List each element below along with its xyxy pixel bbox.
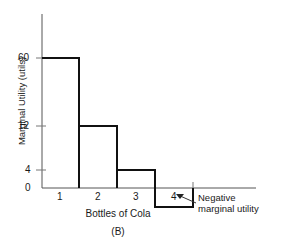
x-axis-label: Bottles of Cola	[42, 208, 194, 219]
x-tick-label-2: 2	[95, 192, 101, 202]
x-tick-label-3: 3	[133, 192, 139, 202]
bar-series-outline	[42, 58, 193, 207]
figure-container: 60 12 4 0 1 2 3 4 Marginal Utility (util…	[0, 0, 286, 250]
annotation-line-2: marginal utility	[198, 203, 284, 214]
x-tick-label-1: 1	[57, 192, 63, 202]
y-tick-label-0: 0	[25, 183, 31, 193]
y-axis-label: Marginal Utility (utils)	[17, 41, 27, 161]
annotation-line-1: Negative	[198, 192, 284, 203]
negative-marginal-utility-annotation: Negative marginal utility	[198, 192, 284, 214]
figure-caption: (B)	[42, 226, 194, 237]
y-tick-label-4: 4	[25, 165, 31, 175]
annotation-arrow-icon	[176, 194, 184, 199]
x-tick-label-4: 4	[171, 192, 177, 202]
